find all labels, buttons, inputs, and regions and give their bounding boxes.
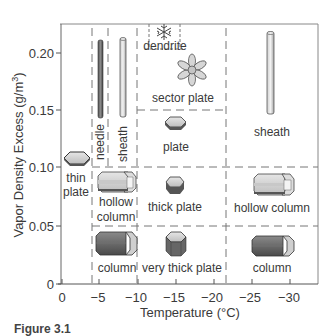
x-tick-label: −30 bbox=[278, 290, 300, 305]
sheath-left-label: sheath bbox=[116, 126, 130, 162]
x-axis-tick-labels: 0 −5 −10 −15 −20 −25 −30 bbox=[58, 290, 300, 305]
thin-plate-crystal-icon bbox=[64, 152, 90, 166]
plate-crystal-icon bbox=[165, 117, 186, 130]
y-axis-title: Vapor Density Excess (g/m3) bbox=[10, 72, 26, 237]
x-axis-ticks bbox=[62, 279, 290, 284]
y-tick-label: 0.15 bbox=[29, 103, 54, 118]
y-tick-label: 0.05 bbox=[29, 219, 54, 234]
x-tick-label: −5 bbox=[91, 290, 106, 305]
sheath-right-crystal-icon bbox=[267, 32, 274, 115]
y-axis-tick-labels: 0.20 0.15 0.10 0.05 0 bbox=[29, 46, 54, 292]
thin-plate-label: thin bbox=[66, 171, 85, 185]
x-tick-label: −10 bbox=[125, 290, 147, 305]
x-tick-label: −15 bbox=[163, 290, 185, 305]
needle-label: needle bbox=[93, 124, 107, 160]
needle-crystal-icon bbox=[98, 40, 103, 118]
sheath-right-label: sheath bbox=[254, 125, 290, 139]
sector-plate-crystal-icon bbox=[176, 54, 207, 86]
thick-plate-crystal-icon bbox=[166, 177, 184, 194]
hollow-column-left-label: column bbox=[97, 210, 136, 224]
column-left-label: column bbox=[98, 261, 137, 275]
hollow-column-right-label: hollow column bbox=[234, 201, 310, 215]
x-tick-label: −25 bbox=[239, 290, 261, 305]
x-tick-label: −20 bbox=[201, 290, 223, 305]
thin-plate-label: plate bbox=[63, 185, 89, 199]
column-right-crystal-icon bbox=[252, 236, 294, 256]
column-crystal-icon bbox=[96, 232, 137, 255]
dendrite-snowflake-icon bbox=[157, 24, 171, 40]
y-axis-ticks bbox=[56, 53, 61, 284]
column-right-label: column bbox=[253, 261, 292, 275]
very-thick-plate-label: very thick plate bbox=[142, 261, 222, 275]
hollow-column-crystal-icon bbox=[98, 172, 136, 192]
hollow-column-right-crystal-icon bbox=[254, 174, 294, 195]
y-tick-label: 0.10 bbox=[29, 160, 54, 175]
sheath-crystal-icon bbox=[120, 38, 126, 117]
hollow-column-left-label: hollow bbox=[99, 195, 133, 209]
figure-caption: Figure 3.1 bbox=[14, 322, 71, 336]
very-thick-plate-crystal-icon bbox=[166, 232, 186, 256]
plate-label: plate bbox=[163, 140, 189, 154]
x-tick-label: 0 bbox=[58, 290, 65, 305]
thick-plate-label: thick plate bbox=[148, 200, 202, 214]
dendrite-label: dendrite bbox=[143, 39, 187, 53]
x-axis-title: Temperature (°C) bbox=[140, 305, 240, 320]
y-tick-label: 0 bbox=[47, 277, 54, 292]
y-tick-label: 0.20 bbox=[29, 46, 54, 61]
sector-plate-label: sector plate bbox=[152, 91, 214, 105]
